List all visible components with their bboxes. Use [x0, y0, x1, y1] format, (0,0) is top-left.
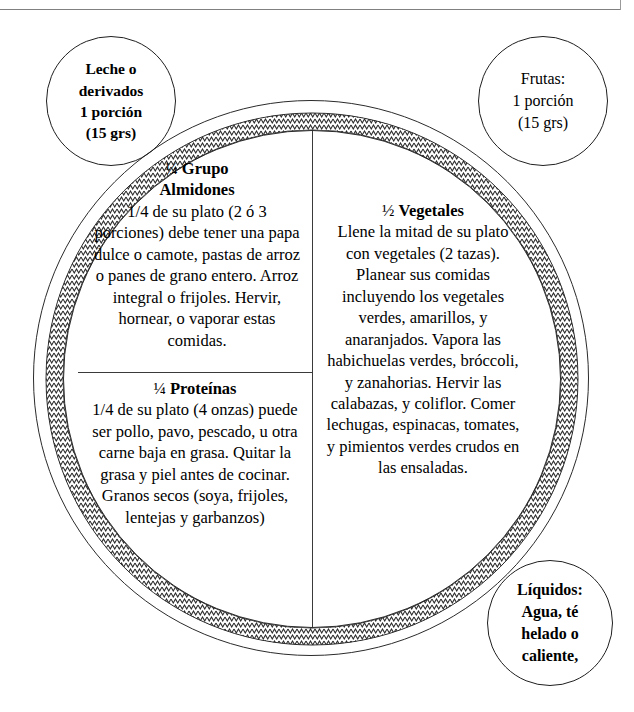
- sector-almidones-fraction: ¼: [165, 159, 182, 178]
- page-top-rule-end-cap: [620, 0, 621, 10]
- sector-proteinas: ¼ Proteínas 1/4 de su plato (4 onzas) pu…: [81, 378, 309, 528]
- sector-proteinas-fraction: ¼: [153, 379, 170, 398]
- sector-vegetales-heading: ½ Vegetales: [325, 200, 521, 221]
- bubble-liquids-line-1: Líquidos:: [517, 581, 583, 598]
- bubble-liquids-line-4: caliente,: [522, 647, 578, 664]
- bubble-fruits-line-1: Frutas:: [521, 70, 565, 87]
- bubble-dairy-text: Leche o derivados 1 porción (15 grs): [79, 58, 144, 144]
- bubble-fruits-text: Frutas: 1 porción (15 grs): [513, 68, 574, 134]
- bubble-fruits-line-2: 1 porción: [513, 92, 574, 109]
- sector-proteinas-body: 1/4 de su plato (4 onzas) puede ser poll…: [81, 399, 309, 528]
- bubble-dairy-line-4: (15 grs): [86, 124, 136, 141]
- bubble-liquids-line-3: helado o: [521, 625, 578, 642]
- bubble-fruits: Frutas: 1 porción (15 grs): [478, 36, 608, 166]
- sector-almidones-body: 1/4 de su plato (2 ó 3 porciones) debe t…: [91, 201, 303, 351]
- plate-diagram: ¼ Grupo Almidones 1/4 de su plato (2 ó 3…: [33, 100, 591, 658]
- sector-almidones-heading-word1: Grupo: [182, 159, 229, 178]
- bubble-liquids: Líquidos: Agua, té helado o caliente,: [487, 560, 613, 686]
- sector-proteinas-heading: ¼ Proteínas: [81, 378, 309, 399]
- plate-divider-horizontal: [78, 372, 312, 373]
- sector-vegetales-heading-word: Vegetales: [399, 201, 464, 220]
- plate-divider-vertical: [312, 131, 313, 627]
- bubble-dairy-line-1: Leche o: [85, 60, 136, 77]
- bubble-fruits-line-3: (15 grs): [518, 114, 568, 131]
- bubble-dairy: Leche o derivados 1 porción (15 grs): [46, 36, 176, 166]
- bubble-liquids-text: Líquidos: Agua, té helado o caliente,: [517, 579, 583, 667]
- sector-almidones: ¼ Grupo Almidones 1/4 de su plato (2 ó 3…: [91, 158, 303, 351]
- sector-proteinas-heading-word: Proteínas: [170, 379, 237, 398]
- sector-vegetales: ½ Vegetales Llene la mitad de su plato c…: [325, 200, 521, 479]
- bubble-dairy-line-2: derivados: [79, 82, 144, 99]
- bubble-liquids-line-2: Agua, té: [522, 603, 579, 620]
- sector-vegetales-body: Llene la mitad de su plato con vegetales…: [325, 221, 521, 478]
- page-top-rule: [0, 9, 621, 10]
- bubble-dairy-line-3: 1 porción: [80, 103, 142, 120]
- sector-vegetales-fraction: ½: [382, 201, 399, 220]
- sector-almidones-heading-word2: Almidones: [159, 180, 234, 199]
